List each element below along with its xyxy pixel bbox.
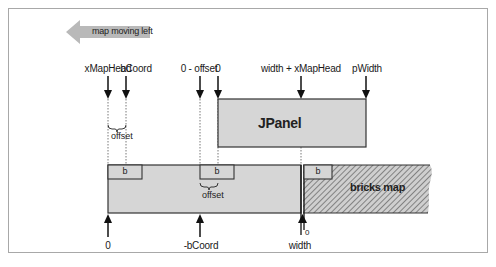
brick-label-3: b bbox=[315, 166, 320, 176]
bricks-map-label: bricks map bbox=[350, 181, 405, 193]
label-bottom-zero: 0 bbox=[105, 240, 110, 251]
diagram-canvas bbox=[0, 0, 496, 267]
label-width: width bbox=[289, 240, 311, 251]
label-width-plus-xMapHead: width + xMapHead bbox=[261, 63, 341, 74]
jpanel-label: JPanel bbox=[258, 115, 301, 131]
bottom-up-arrows bbox=[104, 214, 307, 237]
offset-label-top: offset bbox=[111, 131, 133, 141]
label-pWidth: pWidth bbox=[352, 63, 382, 74]
label-neg-bCoord: -bCoord bbox=[184, 240, 219, 251]
label-zero-minus-offset: 0 - offset bbox=[181, 63, 218, 74]
offset-label-middle: offset bbox=[202, 190, 224, 200]
label-small-zero: 0 bbox=[305, 228, 309, 237]
brick-label-1: b bbox=[122, 166, 127, 176]
direction-label: map moving left bbox=[92, 26, 153, 36]
brick-label-2: b bbox=[214, 166, 219, 176]
top-down-arrows bbox=[104, 76, 370, 99]
label-zero: 0 bbox=[215, 63, 220, 74]
label-bCoord: bCoord bbox=[120, 63, 152, 74]
